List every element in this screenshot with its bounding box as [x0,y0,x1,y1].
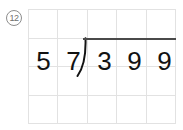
grid-cell[interactable] [147,10,176,39]
grid-cell[interactable] [117,10,146,39]
grid-cell[interactable] [147,67,176,96]
grid-cell[interactable] [58,67,87,96]
worksheet-problem: 12 5 7 3 9 9 [0,0,183,130]
grid-cell[interactable] [29,39,58,68]
grid-cell[interactable] [58,39,87,68]
grid-cell[interactable] [88,96,117,125]
problem-number-badge: 12 [6,10,22,26]
grid-cell[interactable] [29,10,58,39]
grid-cell[interactable] [147,96,176,125]
grid-cell[interactable] [58,10,87,39]
grid-cell[interactable] [117,96,146,125]
grid-cell[interactable] [58,96,87,125]
grid-cell[interactable] [147,39,176,68]
grid-cell[interactable] [88,39,117,68]
grid-cell[interactable] [88,10,117,39]
grid-cell[interactable] [88,67,117,96]
answer-grid [28,9,176,124]
grid-cell[interactable] [29,67,58,96]
grid-cell[interactable] [29,96,58,125]
grid-cell[interactable] [117,39,146,68]
grid-cell[interactable] [117,67,146,96]
